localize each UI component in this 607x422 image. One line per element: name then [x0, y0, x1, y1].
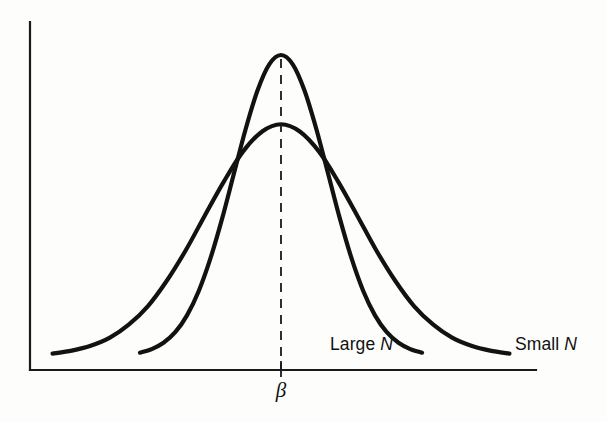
small-n-label-prefix: Small — [515, 334, 564, 354]
small-n-label-symbol: N — [564, 334, 577, 354]
small-n-label: Small N — [515, 334, 577, 354]
large-n-label: Large N — [330, 334, 393, 354]
chart-canvas: Large N Small N β — [0, 0, 607, 422]
large-n-label-symbol: N — [380, 334, 393, 354]
beta-tick-label: β — [275, 378, 287, 402]
sampling-distribution-figure: Large N Small N β — [0, 0, 607, 422]
large-n-label-prefix: Large — [330, 334, 380, 354]
